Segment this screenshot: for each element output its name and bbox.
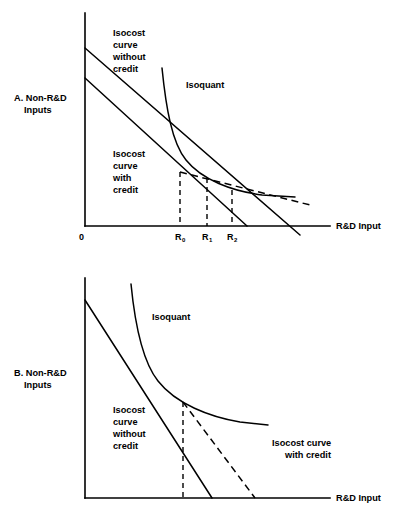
svg-text:R: R bbox=[202, 232, 209, 242]
svg-text:with: with bbox=[112, 173, 132, 183]
svg-text:curve: curve bbox=[113, 40, 138, 50]
svg-text:with credit: with credit bbox=[284, 450, 331, 460]
panel-a-chart: A. Non-R&D Inputs R&D Input 0 Isocost cu… bbox=[0, 0, 409, 257]
panel-a-isocost-without-credit-label: Isocost curve without credit bbox=[112, 28, 146, 74]
panel-a-isoquant-label: Isoquant bbox=[186, 80, 224, 90]
svg-text:0: 0 bbox=[182, 237, 186, 243]
panel-a-x-axis-label: R&D Input bbox=[336, 221, 381, 231]
svg-text:2: 2 bbox=[234, 237, 238, 243]
svg-text:Isocost curve: Isocost curve bbox=[272, 438, 331, 448]
panel-b-isocost-with-credit-label: Isocost curve with credit bbox=[272, 438, 331, 460]
svg-text:curve: curve bbox=[113, 417, 138, 427]
panel-a-axis-label-line2: Inputs bbox=[24, 105, 52, 115]
svg-text:without: without bbox=[112, 429, 146, 439]
svg-text:1: 1 bbox=[209, 237, 213, 243]
panel-a-origin-label: 0 bbox=[79, 232, 84, 242]
svg-text:Isocost: Isocost bbox=[113, 28, 145, 38]
panel-a-tick-r0: R 0 bbox=[175, 232, 186, 243]
svg-text:curve: curve bbox=[113, 161, 138, 171]
panel-a-tick-r2: R 2 bbox=[227, 232, 238, 243]
svg-text:without: without bbox=[112, 52, 146, 62]
svg-text:credit: credit bbox=[113, 185, 138, 195]
panel-a-isocost-with-credit-label: Isocost curve with credit bbox=[112, 149, 145, 195]
svg-text:Isocost: Isocost bbox=[113, 405, 145, 415]
panel-b-isocost-without-credit-line bbox=[85, 300, 212, 498]
panel-b-isocost-with-credit-line bbox=[183, 402, 255, 498]
panel-a-isocost-without-credit-line bbox=[85, 48, 300, 235]
svg-text:R: R bbox=[227, 232, 234, 242]
svg-text:Isocost: Isocost bbox=[113, 149, 145, 159]
panel-a-axis-label-line1: A. Non-R&D bbox=[14, 93, 67, 103]
svg-text:credit: credit bbox=[113, 64, 138, 74]
figure-root: A. Non-R&D Inputs R&D Input 0 Isocost cu… bbox=[0, 0, 409, 514]
svg-text:R: R bbox=[175, 232, 182, 242]
panel-b-axis-label-line1: B. Non-R&D bbox=[14, 368, 67, 378]
svg-text:credit: credit bbox=[113, 441, 138, 451]
panel-a-isocost-rotated-dashed-line bbox=[180, 172, 310, 205]
panel-b-x-axis-label: R&D Input bbox=[336, 493, 381, 503]
panel-b-chart: B. Non-R&D Inputs R&D Input Isoquant Iso… bbox=[0, 257, 409, 514]
panel-b-isocost-without-credit-label: Isocost curve without credit bbox=[112, 405, 146, 451]
panel-a-tick-r1: R 1 bbox=[202, 232, 213, 243]
panel-b-isoquant-label: Isoquant bbox=[152, 312, 190, 322]
panel-b-axis-label-line2: Inputs bbox=[24, 380, 52, 390]
